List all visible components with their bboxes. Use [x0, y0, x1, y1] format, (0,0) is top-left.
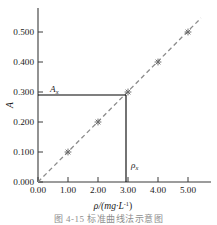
- x-axis-tick-labels: 0.00 1.00 2.00 3.00 4.00 5.00: [30, 185, 196, 195]
- data-point-marker: [125, 89, 132, 96]
- figure-caption: 图 4-15 标准曲线法示意图: [0, 214, 217, 225]
- x-axis-title-numerator: ρ/(mg·L: [93, 200, 124, 212]
- y-tick-label: 0.100: [13, 147, 34, 157]
- x-axis-title-close: ): [129, 200, 132, 212]
- y-tick-label: 0.400: [13, 57, 34, 67]
- standard-curve-chart: 0.000 0.100 0.200 0.300 0.400 0.500 0.00…: [0, 0, 217, 225]
- rhox-annotation-label: ρx: [130, 160, 138, 171]
- figure-container: 0.000 0.100 0.200 0.300 0.400 0.500 0.00…: [0, 0, 217, 225]
- ax-annotation-label: Ax: [49, 84, 59, 95]
- x-tick-label: 2.00: [90, 185, 106, 195]
- x-tick-label: 4.00: [150, 185, 166, 195]
- x-tick-label: 5.00: [180, 185, 196, 195]
- y-axis-tick-labels: 0.000 0.100 0.200 0.300 0.400 0.500: [13, 27, 34, 187]
- y-axis-title: A: [4, 102, 15, 109]
- x-tick-label: 0.00: [30, 185, 46, 195]
- x-axis-title: ρ/(mg·L-1): [93, 200, 132, 212]
- ax-label-subscript: x: [55, 88, 59, 95]
- x-axis-ticks: [38, 177, 188, 182]
- y-tick-label: 0.500: [13, 27, 34, 37]
- data-point-marker: [65, 149, 72, 156]
- x-tick-label: 1.00: [60, 185, 76, 195]
- standard-curve-line: [38, 18, 201, 182]
- x-tick-label: 3.00: [120, 185, 136, 195]
- y-tick-label: 0.200: [13, 117, 34, 127]
- data-point-marker: [95, 119, 102, 126]
- y-axis-ticks: [38, 32, 43, 182]
- rhox-label-subscript: x: [134, 164, 138, 171]
- y-tick-label: 0.300: [13, 87, 34, 97]
- data-point-marker: [155, 59, 162, 66]
- data-point-marker: [185, 29, 192, 36]
